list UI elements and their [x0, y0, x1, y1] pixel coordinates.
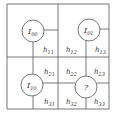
weight-h11: h11 [43, 46, 54, 55]
weight-h21: h21 [44, 68, 55, 77]
pixel-grid-diagram: I00 I01 I10 ? h11 h12 h13 h21 h22 h23 h3… [0, 0, 132, 114]
weight-h23: h23 [94, 68, 105, 77]
weight-h22: h22 [66, 68, 77, 77]
weight-h13: h13 [95, 46, 106, 55]
weight-h33: h33 [94, 98, 105, 107]
weight-h31: h31 [44, 98, 55, 107]
weight-h12: h12 [66, 46, 77, 55]
weight-h32: h32 [66, 98, 77, 107]
node-label-unknown: ? [84, 83, 89, 92]
